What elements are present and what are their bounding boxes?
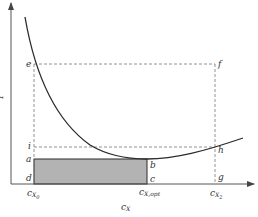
y-axis-label: Y [0, 93, 5, 100]
label-b: b [150, 160, 156, 170]
label-e: e [26, 59, 31, 69]
x-axis-label: cX [121, 202, 131, 212]
label-d: d [26, 173, 32, 183]
label-i: i [28, 141, 31, 151]
cost-curve [25, 17, 243, 159]
label-g: g [218, 172, 224, 182]
shaded-area-abcd [34, 159, 147, 184]
tick-cx2: cX2 [210, 188, 223, 200]
label-h: h [218, 145, 224, 155]
label-c: c [150, 174, 155, 184]
label-f: f [217, 59, 223, 69]
cost-curve-diagram: e f i a d b c h g cX0 cX,opt cX2 cX Y [0, 0, 258, 217]
label-a: a [26, 154, 31, 164]
tick-cx0: cX0 [27, 188, 40, 200]
tick-cxopt: cX,opt [139, 187, 161, 198]
